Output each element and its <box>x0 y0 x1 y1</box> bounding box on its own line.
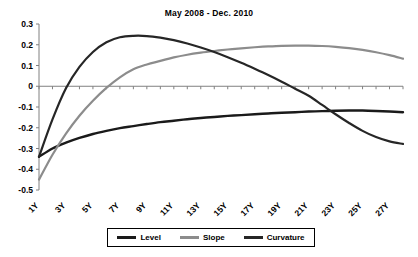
y-tick-label: -0.1 <box>18 102 33 112</box>
legend-item-level: Level <box>117 234 160 242</box>
y-tick-label: -0.3 <box>18 144 33 154</box>
x-tick-label: 19Y <box>265 200 283 218</box>
x-axis-labels: 1Y3Y5Y7Y9Y11Y13Y15Y17Y19Y21Y23Y25Y27Y <box>26 200 391 218</box>
y-tick-label: -0.2 <box>18 123 33 133</box>
y-tick-label: 0 <box>28 81 33 91</box>
y-axis-labels: 0.30.20.10-0.1-0.2-0.3-0.4-0.5 <box>18 19 33 195</box>
x-tick-label: 13Y <box>184 200 202 218</box>
y-tick-label: 0.3 <box>21 19 33 29</box>
y-tick-label: -0.4 <box>18 164 33 174</box>
y-tick-label: 0.1 <box>21 61 33 71</box>
x-tick-label: 25Y <box>346 200 364 218</box>
y-tick-label: 0.2 <box>21 40 33 50</box>
x-tick-label: 5Y <box>80 200 95 215</box>
x-tick-label: 21Y <box>292 200 310 218</box>
x-tick-label: 3Y <box>53 200 68 215</box>
legend-item-curvature: Curvature <box>244 234 305 242</box>
x-tick-label: 15Y <box>211 200 229 218</box>
legend-swatch-slope <box>180 236 199 238</box>
legend-label-curvature: Curvature <box>267 234 305 242</box>
x-tick-label: 17Y <box>238 200 256 218</box>
series-line-curvature <box>39 36 403 157</box>
series-line-slope <box>39 46 403 180</box>
chart-plot-area: 1Y3Y5Y7Y9Y11Y13Y15Y17Y19Y21Y23Y25Y27Y 0.… <box>0 0 418 257</box>
series-line-level <box>39 110 403 156</box>
legend-item-slope: Slope <box>180 234 225 242</box>
chart-legend: Level Slope Curvature <box>107 228 315 247</box>
series-layer <box>39 36 403 180</box>
x-tick-label: 1Y <box>26 200 41 215</box>
y-tick-label: -0.5 <box>18 185 33 195</box>
x-tick-label: 7Y <box>107 200 122 215</box>
x-tick-label: 11Y <box>158 200 176 218</box>
legend-swatch-curvature <box>244 236 263 238</box>
chart-container: May 2008 - Dec. 2010 1Y3Y5Y7Y9Y11Y13Y15Y… <box>0 0 418 257</box>
legend-label-level: Level <box>140 234 160 242</box>
legend-label-slope: Slope <box>203 234 225 242</box>
x-tick-label: 27Y <box>373 200 391 218</box>
x-tick-label: 23Y <box>319 200 337 218</box>
x-tick-label: 9Y <box>134 200 149 215</box>
legend-swatch-level <box>117 236 136 238</box>
